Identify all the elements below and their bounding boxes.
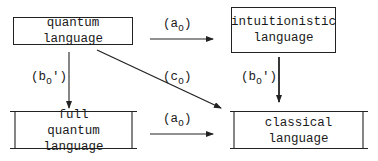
node-full-quantum-line1: full: [15, 107, 132, 123]
label-left-arrow: (bo'): [31, 70, 67, 87]
label-bottom-arrow: (ao): [163, 112, 192, 129]
label-diagonal-arrow: (co): [163, 70, 192, 87]
arrow-diagonal: [97, 50, 221, 108]
node-intuitionistic-language: intuitionistic language: [231, 7, 336, 53]
node-quantum-language: quantum language: [13, 17, 133, 45]
node-classical-language-text: classical language: [234, 115, 363, 147]
label-right-arrow: (bo'): [241, 70, 277, 87]
label-top-arrow: (ao): [163, 17, 192, 34]
node-full-quantum-language: full quantum language: [15, 113, 132, 148]
node-intuitionistic-line2: language: [253, 30, 313, 46]
node-quantum-language-text: quantum language: [14, 15, 132, 47]
node-classical-language: classical language: [234, 113, 363, 148]
node-intuitionistic-line1: intuitionistic: [231, 14, 336, 30]
node-full-quantum-line2: quantum language: [15, 123, 132, 155]
